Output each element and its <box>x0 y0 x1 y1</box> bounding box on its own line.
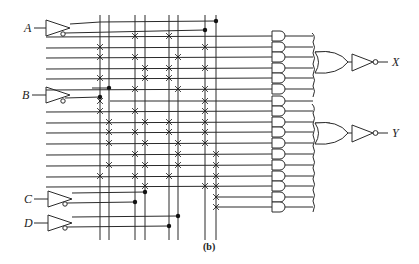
and-gate-icon <box>272 202 285 212</box>
or-gate-x: X <box>315 51 400 73</box>
inverter-bubble-icon <box>61 32 65 36</box>
and-gate-icon <box>272 160 285 170</box>
and-gate-icon <box>272 192 285 202</box>
input-label-b: B <box>22 88 30 102</box>
inverter-bubble-icon <box>61 99 65 103</box>
vertical-input-lines <box>100 15 216 240</box>
input-label-c: C <box>24 192 33 206</box>
inverter-bubble-icon <box>373 131 378 136</box>
and-gate-icon <box>272 63 285 73</box>
and-gate-array <box>272 31 313 212</box>
inverter-bubble-icon <box>373 60 378 65</box>
and-gate-icon <box>272 42 285 52</box>
and-gate-icon <box>272 181 285 191</box>
inverter-icon <box>352 54 373 71</box>
or-input-bracket-y <box>312 104 315 212</box>
and-gate-icon <box>272 171 285 181</box>
input-label-d: D <box>23 216 33 230</box>
and-gate-icon <box>272 127 285 137</box>
and-gate-icon <box>272 106 285 116</box>
crosspoint-marks <box>97 33 219 210</box>
input-label-a: A <box>23 21 32 35</box>
or-gate-y: Y <box>315 122 400 144</box>
buffer-icon <box>46 87 70 103</box>
and-gate-icon <box>272 84 285 94</box>
inverter-bubble-icon <box>63 226 67 230</box>
buffer-icon <box>48 191 72 207</box>
and-gate-icon <box>272 138 285 148</box>
output-label-x: X <box>391 55 400 69</box>
pla-logic-diagram: A B C D <box>0 0 419 264</box>
inverter-icon <box>352 125 373 142</box>
and-gate-icon <box>272 73 285 83</box>
buffer-icon <box>46 20 70 36</box>
and-gate-icon <box>272 31 285 41</box>
input-c-buffer: C <box>24 191 145 207</box>
connection-dots <box>98 19 218 228</box>
and-gate-icon <box>272 117 285 127</box>
product-term-rows <box>46 36 272 207</box>
figure-caption: (b) <box>203 241 215 253</box>
and-gate-icon <box>272 52 285 62</box>
output-label-y: Y <box>392 126 400 140</box>
and-gate-icon <box>272 96 285 106</box>
inverter-bubble-icon <box>63 202 67 206</box>
or-input-bracket-x <box>312 33 315 97</box>
and-gate-icon <box>272 149 285 159</box>
buffer-icon <box>48 215 72 231</box>
